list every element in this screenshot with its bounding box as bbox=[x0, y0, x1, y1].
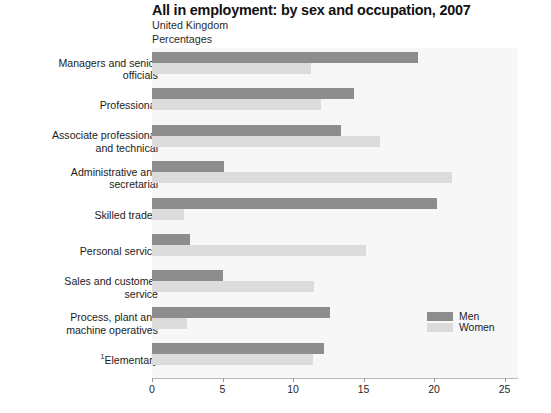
chart-row: 1Elementary bbox=[0, 343, 551, 377]
legend-label-men: Men bbox=[459, 311, 479, 322]
chart-title: All in employment: by sex and occupation… bbox=[152, 2, 547, 19]
bar-women bbox=[152, 209, 184, 220]
x-axis-tick-mark bbox=[152, 378, 153, 382]
bar-men bbox=[152, 234, 190, 245]
chart-legend: Men Women bbox=[427, 311, 515, 333]
x-axis-tick-mark bbox=[364, 378, 365, 382]
chart-row: Personal service bbox=[0, 234, 551, 268]
category-label: Skilled trades bbox=[13, 209, 158, 222]
category-label: Administrative and secretarial bbox=[13, 166, 158, 191]
bar-women bbox=[152, 136, 380, 147]
legend-swatch-men-icon bbox=[427, 312, 453, 321]
chart-row: Administrative and secretarial bbox=[0, 161, 551, 195]
bar-men bbox=[152, 88, 354, 99]
x-axis-tick-mark bbox=[223, 378, 224, 382]
category-label: Managers and senior officials bbox=[13, 57, 158, 82]
x-axis-tick-label: 0 bbox=[149, 383, 155, 395]
chart-header: All in employment: by sex and occupation… bbox=[152, 2, 547, 46]
x-axis-tick-mark bbox=[293, 378, 294, 382]
bar-women bbox=[152, 354, 313, 365]
x-axis-tick-mark bbox=[434, 378, 435, 382]
bar-women bbox=[152, 281, 314, 292]
legend-label-women: Women bbox=[459, 322, 495, 333]
legend-swatch-women-icon bbox=[427, 323, 453, 332]
legend-item-women: Women bbox=[427, 322, 515, 333]
category-label: Personal service bbox=[13, 245, 158, 258]
bar-women bbox=[152, 99, 321, 110]
x-axis-tick-label: 20 bbox=[428, 383, 440, 395]
bar-men bbox=[152, 343, 324, 354]
employment-occupation-bar-chart: All in employment: by sex and occupation… bbox=[0, 0, 551, 413]
legend-item-men: Men bbox=[427, 311, 515, 322]
x-axis-tick-label: 15 bbox=[358, 383, 370, 395]
bar-men bbox=[152, 161, 224, 172]
x-axis-tick-label: 5 bbox=[220, 383, 226, 395]
chart-subtitle-region: United Kingdom bbox=[152, 19, 547, 33]
chart-row: Associate professional and technical bbox=[0, 125, 551, 159]
bar-women bbox=[152, 172, 452, 183]
chart-subtitle-units: Percentages bbox=[152, 33, 547, 47]
bar-men bbox=[152, 198, 437, 209]
bar-men bbox=[152, 52, 418, 63]
bar-women bbox=[152, 63, 311, 74]
bar-men bbox=[152, 125, 341, 136]
category-label: Professional bbox=[13, 99, 158, 112]
x-axis-tick-label: 25 bbox=[499, 383, 511, 395]
x-axis-line bbox=[152, 378, 518, 379]
bar-women bbox=[152, 318, 187, 329]
bar-men bbox=[152, 270, 223, 281]
bar-men bbox=[152, 307, 330, 318]
chart-row: Skilled trades bbox=[0, 198, 551, 232]
category-label: 1Elementary bbox=[13, 354, 158, 367]
x-axis-tick-label: 10 bbox=[287, 383, 299, 395]
chart-row: Professional bbox=[0, 88, 551, 122]
category-label: Associate professional and technical bbox=[13, 129, 158, 154]
chart-row: Managers and senior officials bbox=[0, 52, 551, 86]
chart-row: Sales and customer service bbox=[0, 270, 551, 304]
bar-women bbox=[152, 245, 366, 256]
footnote-marker: 1 bbox=[101, 354, 105, 361]
x-axis-tick-mark bbox=[505, 378, 506, 382]
category-label: Process, plant and machine operatives bbox=[13, 311, 158, 336]
category-label: Sales and customer service bbox=[13, 275, 158, 300]
